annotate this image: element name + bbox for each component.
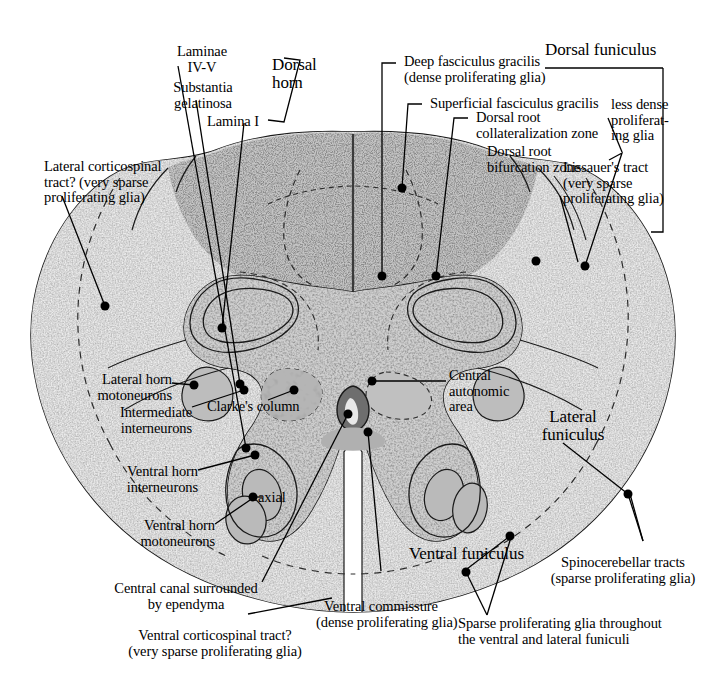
dot-intermediate-interneurons <box>240 386 249 395</box>
label-dorsal-root-collateralization-zone: Dorsal root collateralization zone <box>476 110 598 141</box>
label-ventral-funiculus: Ventral funiculus <box>409 545 524 563</box>
dot-lateral-horn-motoneurons <box>190 381 199 390</box>
label-axial: axial <box>258 490 286 506</box>
ventral-median-fissure <box>344 438 362 614</box>
label-lateral-funiculus: Lateral funiculus <box>528 408 618 445</box>
label-spinocerebellar-tracts: Spinocerebellar tracts (sparse prolifera… <box>545 555 701 586</box>
label-substantia-gelatinosa: Substantia gelatinosa <box>155 80 251 111</box>
label-sparse-glia-funiculi: Sparse proliferating glia throughout the… <box>458 616 662 647</box>
label-central-autonomic-area: Central autonomic area <box>449 368 509 415</box>
spinal-cord-figure: Laminae IV-V Substantia gelatinosa Lamin… <box>0 0 707 686</box>
label-less-dense-proliferating-glia: less dense proliferat- ing glia <box>611 97 669 144</box>
dot-laminae-iv-v <box>242 444 251 453</box>
dot-clarkes-column <box>290 386 299 395</box>
label-deep-fasciculus-gracilis: Deep fasciculus gracilis (dense prolifer… <box>404 54 546 85</box>
dot-lateral-corticospinal <box>101 302 110 311</box>
dot-dorsal-root-bifurcation <box>581 262 590 271</box>
dot-axial <box>249 493 258 502</box>
label-ventral-horn-motoneurons: Ventral horn motoneurons <box>105 518 215 549</box>
dot-ventral-commissure <box>364 428 373 437</box>
label-ventral-horn-interneurons: Ventral horn interneurons <box>88 464 198 495</box>
dot-dorsal-root-collateralization <box>432 272 441 281</box>
leader-spinocerebellar-b <box>628 494 643 541</box>
label-central-canal-ependyma: Central canal surrounded by ependyma <box>106 581 266 612</box>
label-intermediate-interneurons: Intermediate interneurons <box>82 405 192 436</box>
label-ventral-commissure: Ventral commissure (dense proliferating … <box>316 599 446 630</box>
dot-central-autonomic-area <box>368 377 377 386</box>
dot-lissauers-upper <box>532 257 541 266</box>
label-lateral-horn-motoneurons: Lateral horn motoneurons <box>66 372 172 403</box>
dot-lamina-i <box>218 324 227 333</box>
dot-ventral-funiculus <box>506 532 515 541</box>
label-dorsal-funiculus: Dorsal funiculus <box>545 41 656 59</box>
label-dorsal-horn: Dorsal horn <box>272 56 317 93</box>
label-ventral-corticospinal-tract: Ventral corticospinal tract? (very spars… <box>120 628 310 659</box>
dot-lateral-funiculus <box>624 490 633 499</box>
dot-deep-fasciculus-gracilis <box>378 272 387 281</box>
dorsal-funiculus-bracket <box>651 68 663 232</box>
label-laminae-iv-v: Laminae IV-V <box>162 44 242 75</box>
label-clarkes-column: Clarke's column <box>207 399 300 415</box>
dot-ventral-horn-interneurons <box>251 451 260 460</box>
label-lamina-i: Lamina I <box>207 114 259 130</box>
dot-superficial-fasciculus-gracilis <box>398 184 407 193</box>
dot-central-canal <box>344 410 353 419</box>
label-lissauers-tract: Lissauer's tract (very sparse proliferat… <box>563 160 664 207</box>
label-lateral-corticospinal-tract: Lateral corticospinal tract? (very spars… <box>44 159 161 206</box>
dot-sparse-glia <box>462 568 471 577</box>
